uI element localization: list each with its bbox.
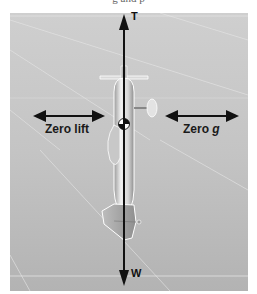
thrust-label: T: [131, 10, 138, 22]
weight-arrowhead-icon: [119, 270, 129, 286]
zero-g-label: Zero g: [183, 122, 220, 136]
force-diagram: [0, 0, 257, 294]
zero-g-double-arrow: [165, 110, 239, 122]
thrust-arrowhead-icon: [119, 14, 129, 30]
aircraft-illustration: [100, 66, 157, 240]
zero-g-prefix: Zero: [183, 122, 212, 136]
zero-lift-label: Zero lift: [45, 122, 89, 136]
zero-lift-double-arrow: [33, 110, 105, 122]
zero-g-symbol: g: [212, 122, 219, 136]
weight-label: W: [131, 267, 141, 279]
